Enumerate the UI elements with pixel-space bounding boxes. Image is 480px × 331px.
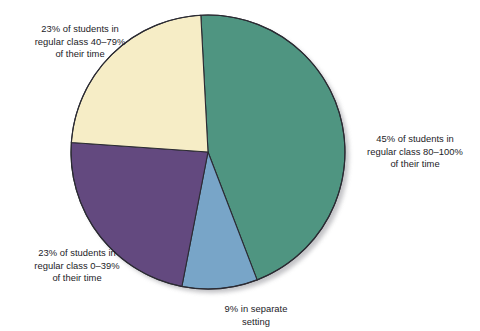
slice-label-separate-setting: 9% in separate setting — [196, 303, 316, 328]
chart-canvas: 23% of students in regular class 40–79% … — [0, 0, 480, 331]
slice-label-regular-0-39: 23% of students in regular class 0–39% o… — [2, 247, 152, 285]
slice-label-regular-80-100: 45% of students in regular class 80–100%… — [352, 133, 478, 171]
slice-label-regular-40-79: 23% of students in regular class 40–79% … — [4, 23, 156, 61]
